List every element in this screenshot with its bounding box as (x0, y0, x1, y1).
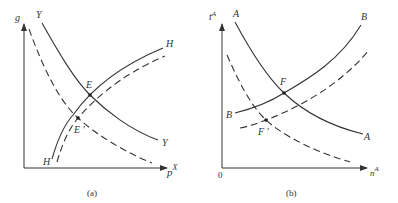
curve-b-label-end: B (361, 11, 367, 22)
curve-a (235, 22, 363, 134)
curve-h-label-start: H (42, 156, 51, 167)
curve-y-label-end: Y (162, 137, 169, 148)
y-axis-label-b: tA (209, 10, 217, 22)
point-e-label: E (85, 79, 92, 90)
x-axis-label-b: nA (370, 165, 380, 178)
panel-a: g pX Y Y H H E E ' (a) (15, 9, 179, 198)
x-axis-label-a: pX (166, 163, 179, 178)
origin-label-b: 0 (218, 170, 223, 180)
curve-y-label-top: Y (36, 9, 43, 20)
point-f (282, 91, 286, 95)
diagram: g pX Y Y H H E E ' (a) tA nA 0 A A (0, 0, 398, 203)
point-f-prime (264, 118, 268, 122)
panel-b: tA nA 0 A A B B F F ' (b) (209, 8, 380, 198)
point-e-prime (76, 116, 80, 120)
curve-b (235, 25, 361, 113)
curve-a-shifted (227, 55, 350, 162)
curve-h-label-end: H (165, 38, 174, 49)
point-e (88, 93, 92, 97)
curve-b-shifted (240, 50, 369, 128)
curve-a-label-top: A (232, 8, 240, 19)
curve-y (42, 23, 158, 140)
curve-b-label-start: B (226, 109, 232, 120)
point-e-prime-label: E ' (73, 124, 86, 135)
y-axis-label-a: g (15, 12, 20, 23)
caption-a: (a) (87, 188, 97, 198)
curve-h-shifted (57, 56, 165, 162)
caption-b: (b) (286, 188, 297, 198)
point-f-label: F (279, 76, 287, 87)
curve-a-label-end: A (363, 131, 371, 142)
point-f-prime-label: F ' (257, 126, 270, 137)
